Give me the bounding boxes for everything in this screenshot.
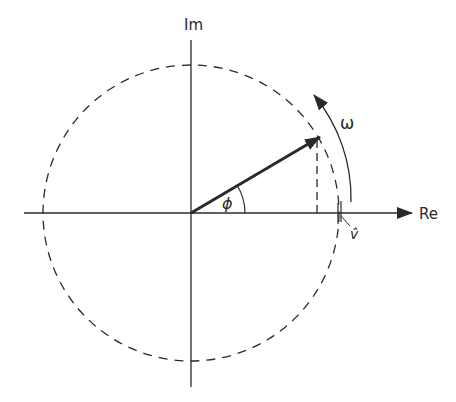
real-axis-label: Re [419,205,438,223]
amplitude-label: v̂ [350,226,359,242]
rotation-arrow [314,95,351,202]
imaginary-axis-label: Im [184,16,203,34]
phasor-diagram: Im Re ϕ ω v̂ [0,0,456,402]
omega-label: ω [340,113,354,133]
amplitude-leader [341,216,350,226]
angle-arc [237,185,245,213]
angle-label: ϕ [222,194,233,213]
phasor-vector [191,137,320,213]
